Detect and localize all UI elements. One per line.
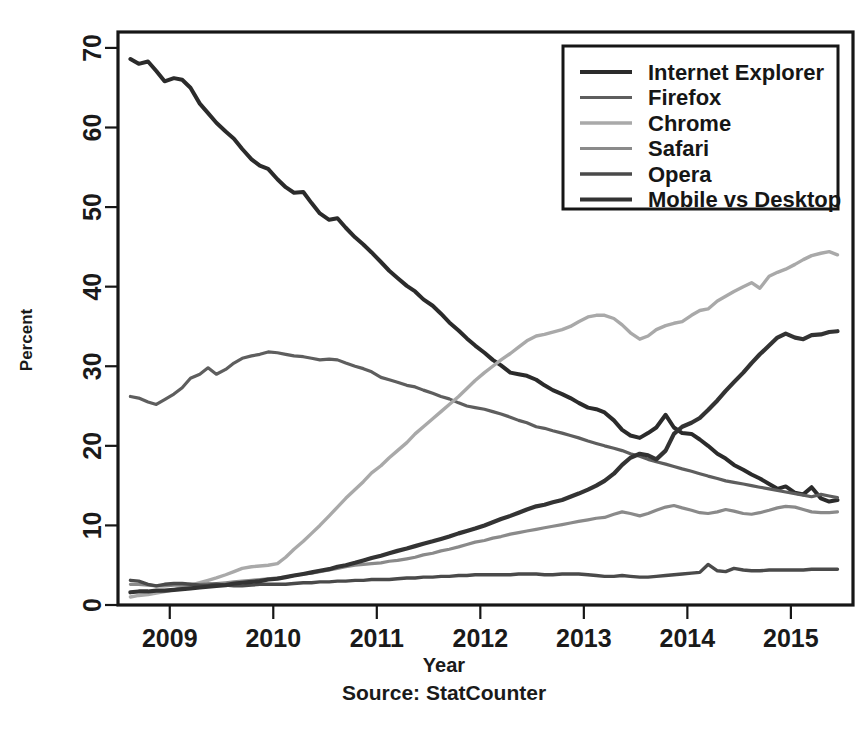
browser-market-share-chart: 010203040506070 200920102011201220132014…: [0, 0, 864, 729]
x-tick-label: 2015: [763, 624, 819, 652]
y-tick-label: 10: [78, 512, 106, 540]
y-axis-title: Percent: [17, 308, 36, 371]
legend-label-chrome: Chrome: [648, 111, 731, 136]
x-tick-label: 2011: [350, 624, 404, 652]
x-tick-label: 2014: [660, 624, 716, 652]
x-tick-label: 2013: [556, 624, 612, 652]
legend-label-safari: Safari: [648, 136, 709, 161]
chart-legend: Internet ExplorerFirefoxChromeSafariOper…: [563, 46, 841, 212]
y-tick-label: 50: [78, 193, 106, 221]
y-tick-label: 30: [78, 352, 106, 380]
legend-label-mobile-vs-desktop: Mobile vs Desktop: [648, 187, 841, 212]
y-tick-label: 0: [78, 598, 106, 612]
y-tick-label: 70: [78, 34, 106, 62]
x-tick-label: 2012: [453, 624, 509, 652]
x-tick-label: 2010: [245, 624, 301, 652]
y-tick-label: 40: [78, 273, 106, 301]
x-axis-title: Year: [423, 654, 465, 676]
legend-label-opera: Opera: [648, 162, 712, 187]
x-tick-label: 2009: [142, 624, 198, 652]
source-caption: Source: StatCounter: [342, 681, 546, 704]
legend-label-firefox: Firefox: [648, 85, 722, 110]
y-tick-label: 20: [78, 432, 106, 460]
chart-canvas: 010203040506070 200920102011201220132014…: [0, 0, 864, 729]
legend-label-internet-explorer: Internet Explorer: [648, 60, 824, 85]
y-tick-label: 60: [78, 114, 106, 142]
